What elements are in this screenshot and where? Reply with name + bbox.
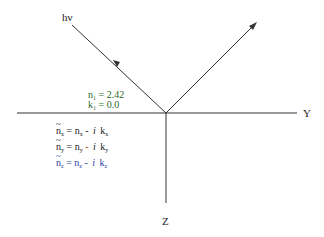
incident-light-label: hν — [62, 12, 72, 23]
y-axis-label: Y — [303, 108, 311, 119]
medium2-nx-equation: nx = nx - i kx — [56, 126, 108, 139]
optics-diagram — [0, 0, 324, 237]
z-axis-label: Z — [162, 216, 169, 227]
incident-ray-arrowhead — [113, 60, 120, 67]
medium2-ny-equation: ny = ny - i ky — [56, 142, 108, 155]
reflected-ray — [166, 24, 255, 113]
medium1-k-equation: k1 = 0.0 — [88, 100, 119, 113]
medium2-nz-equation: nz = nz - i kz — [56, 158, 107, 171]
